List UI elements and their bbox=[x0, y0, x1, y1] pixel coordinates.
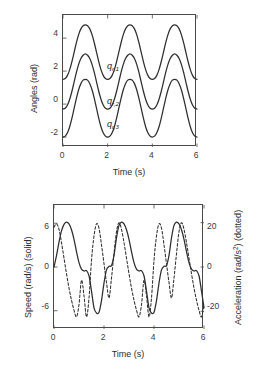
angles-plot-svg bbox=[63, 15, 197, 147]
speed-xtick-0: 0 bbox=[51, 333, 56, 342]
accel-ytick-neg20: -20 bbox=[207, 301, 231, 310]
speed-ytick-neg6: -6 bbox=[31, 301, 49, 310]
curve-label-qr2: qr,2 bbox=[107, 97, 119, 106]
angles-xtick-0: 0 bbox=[60, 151, 65, 160]
accel-ytick-20: 20 bbox=[207, 222, 229, 231]
series-path-q-r-1- bbox=[63, 25, 197, 79]
curve-label-qr1: qr,1 bbox=[107, 62, 119, 71]
accel-yaxis-title-prefix: Acceleration (rad/s bbox=[233, 250, 243, 325]
angles-xtick-4: 4 bbox=[149, 151, 154, 160]
series-path-q-r-3- bbox=[63, 79, 197, 137]
angles-ytick-0: 0 bbox=[44, 95, 58, 104]
accel-yaxis-title: Acceleration (rad/s2) (dotted) bbox=[234, 210, 243, 325]
accel-yaxis-title-sup: 2 bbox=[232, 246, 239, 250]
speed-acceleration-panel: 6 0 -6 20 0 -20 0 2 4 6 Time (s) Speed (… bbox=[0, 190, 256, 378]
speed-xtick-6: 6 bbox=[201, 333, 206, 342]
speed-plot-svg bbox=[54, 205, 204, 329]
angles-axes-box bbox=[62, 14, 196, 146]
curve-label-qr3: qr,3 bbox=[107, 120, 119, 129]
speed-axes-box bbox=[53, 204, 203, 328]
speed-ytick-6: 6 bbox=[35, 222, 49, 231]
angles-xaxis-title: Time (s) bbox=[113, 168, 146, 177]
series-path-q-r-2- bbox=[63, 54, 197, 109]
speed-xtick-4: 4 bbox=[151, 333, 156, 342]
speed-xaxis-title: Time (s) bbox=[112, 350, 145, 359]
angles-xtick-6: 6 bbox=[194, 151, 199, 160]
speed-yaxis-title: Speed (rad/s) (solid) bbox=[24, 236, 33, 318]
curve-label-qr1-sub: r,1 bbox=[112, 65, 119, 72]
curve-label-qr3-sub: r,3 bbox=[112, 123, 119, 130]
angles-yaxis-title: Angles (rad) bbox=[30, 64, 39, 113]
angles-panel: 4 2 0 -2 0 2 4 6 Time (s) Angles (rad) q… bbox=[0, 0, 256, 190]
angles-ytick-2: 2 bbox=[44, 62, 58, 71]
speed-ytick-0: 0 bbox=[35, 262, 49, 271]
curve-label-qr2-sub: r,2 bbox=[112, 100, 119, 107]
angles-ytick-4: 4 bbox=[44, 29, 58, 38]
angles-ytick-neg2: -2 bbox=[40, 128, 58, 137]
figure-container: 4 2 0 -2 0 2 4 6 Time (s) Angles (rad) q… bbox=[0, 0, 256, 378]
accel-ytick-0: 0 bbox=[207, 262, 229, 271]
series-path-speed bbox=[54, 222, 204, 314]
angles-xtick-2: 2 bbox=[104, 151, 109, 160]
speed-xtick-2: 2 bbox=[101, 333, 106, 342]
accel-yaxis-title-suffix: ) (dotted) bbox=[233, 210, 243, 247]
